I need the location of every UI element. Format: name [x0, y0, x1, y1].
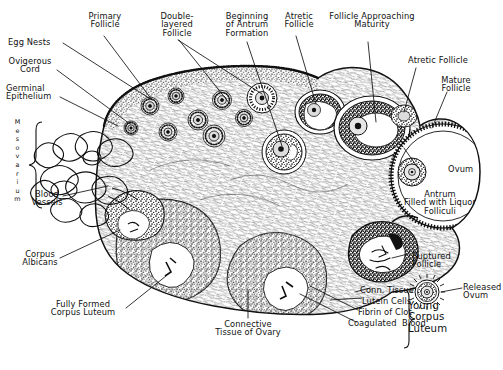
label-ovigerous-cord: Ovigerous Cord [4, 57, 56, 74]
label-ovum: Ovum [448, 165, 473, 173]
label-coagulated-blood: Coagulated Blood [348, 319, 426, 327]
label-double-layered-follicle: Double- layered Follicle [148, 12, 206, 37]
label-conn-tissue: Conn. Tissue [360, 286, 414, 294]
label-antrum-filled-with-liquor-folliculi: Antrum Filled with Liquor Folliculi [392, 190, 488, 215]
ovary-diagram-figure: Egg Nests Ovigerous Cord Germinal Epithe… [0, 0, 503, 370]
label-beginning-antrum-formation: Beginning of Antrum Formation [216, 12, 278, 37]
label-ruptured-follicle: Ruptured Follicle [412, 252, 451, 269]
label-atretic-follicle-top: Atretic Follicle [274, 12, 324, 29]
label-primary-follicle: Primary Follicle [76, 12, 134, 29]
label-blood-vessels: Blood Vessels [26, 190, 68, 207]
label-corpus-albicans: Corpus Albicans [14, 250, 66, 267]
label-egg-nests: Egg Nests [8, 38, 51, 46]
label-mesovarium: Mesovarium [14, 118, 20, 204]
label-atretic-follicle-right: Atretic Follicle [408, 56, 468, 64]
label-lutein-cells: Lutein Cells [362, 297, 411, 305]
label-germinal-epithelium: Germinal Epithelium [6, 84, 51, 101]
label-follicle-approaching-maturity: Follicle Approaching Maturity [322, 12, 422, 29]
label-fibrin-of-clot: Fibrin of Clot [358, 308, 412, 316]
label-fully-formed-corpus-luteum: Fully Formed Corpus Luteum [36, 300, 130, 317]
label-mature-follicle: Mature Follicle [432, 76, 480, 93]
label-connective-tissue-of-ovary: Connective Tissue of Ovary [206, 320, 290, 337]
label-released-ovum: Released Ovum [463, 283, 501, 300]
